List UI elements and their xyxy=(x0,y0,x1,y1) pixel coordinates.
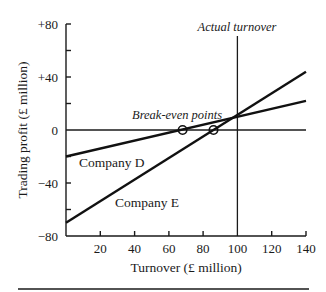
y-tick-label: −40 xyxy=(38,176,58,191)
actual-turnover-label: Actual turnover xyxy=(197,20,277,34)
y-tick-label: −80 xyxy=(38,229,58,244)
x-tick-label: 80 xyxy=(197,241,210,256)
x-tick-label: 100 xyxy=(228,241,248,256)
y-tick-label: +40 xyxy=(38,70,58,85)
x-tick-label: 60 xyxy=(162,241,175,256)
company-e-label: Company E xyxy=(115,195,179,210)
x-tick-label: 120 xyxy=(262,241,282,256)
break-even-chart: +80 +40 0 −40 −80 20 40 60 80 100 120 14… xyxy=(0,0,326,292)
x-axis-title: Turnover (£ million) xyxy=(130,260,241,275)
x-tick-label: 40 xyxy=(128,241,141,256)
x-tick-label: 20 xyxy=(94,241,107,256)
x-axis xyxy=(66,231,306,236)
y-axis-title: Trading profit (£ million) xyxy=(15,61,30,198)
company-d-label: Company D xyxy=(79,155,145,170)
y-tick-label: +80 xyxy=(38,17,58,32)
y-tick-label: 0 xyxy=(52,123,59,138)
break-even-label: Break-even points xyxy=(132,108,222,122)
x-tick-label: 140 xyxy=(296,241,316,256)
